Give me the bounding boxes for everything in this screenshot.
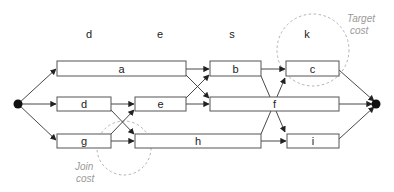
target-cost-label-line2: cost [350,25,370,36]
task-box-e: e [135,97,186,111]
task-box-c: c [286,61,339,76]
column-label-k: k [304,28,310,40]
task-label-i: i [312,135,314,147]
task-box-d: d [57,97,111,111]
edge-start-a [18,69,56,104]
start-node [14,100,23,109]
column-label-d: d [86,28,92,40]
task-label-d: d [81,98,87,110]
edge-i-end [339,107,374,139]
end-node [372,100,381,109]
edge-c-end [339,70,374,101]
task-box-h: h [135,134,261,148]
task-box-b: b [210,61,261,76]
task-box-i: i [287,134,339,148]
task-label-e: e [157,98,163,110]
column-label-s: s [229,28,235,40]
column-label-e: e [157,28,163,40]
target-cost-label-line1: Target [347,13,376,24]
task-label-c: c [310,63,316,75]
network-diagram: d e s k Target cost Join cost [0,0,394,192]
task-box-f: f [210,97,339,111]
join-cost-label-line1: Join [74,161,94,172]
task-label-h: h [195,135,201,147]
task-label-g: g [81,135,87,147]
join-cost-label-line2: cost [76,173,96,184]
task-label-a: a [118,63,125,75]
task-box-g: g [57,134,111,148]
task-label-b: b [232,63,238,75]
task-box-a: a [57,61,186,76]
edge-start-g [18,104,56,140]
